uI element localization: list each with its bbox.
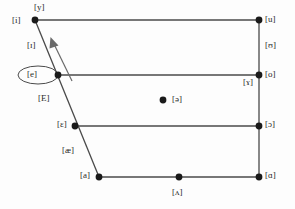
vowel-label-rams: [ɤ] [243, 78, 253, 87]
vowel-label-E: [E] [38, 94, 50, 103]
dot-a [96, 174, 103, 181]
vowel-label-wedge: [ʌ] [172, 188, 183, 197]
vowel-quadrilateral-svg [0, 0, 295, 209]
vowel-dots [32, 17, 263, 181]
dot-wedge [176, 174, 183, 181]
vowel-label-ae: [æ] [62, 146, 74, 155]
vowel-label-u: [u] [265, 15, 276, 24]
vowel-label-script-a: [ɑ] [265, 171, 276, 180]
vowel-label-openo: [ɔ] [265, 120, 275, 129]
e-highlight-ellipse [18, 66, 58, 84]
vowel-chart: [i] [y] [u] [ʊ] [ɪ] [e] [o] [ɤ] [E] [ə] … [0, 0, 295, 209]
dot-schwa [160, 97, 167, 104]
vowel-label-e: [e] [27, 70, 37, 79]
vowel-label-i: [i] [12, 16, 21, 25]
dot-eps [72, 123, 79, 130]
dot-e [55, 72, 62, 79]
vowel-label-eps: [ɛ] [57, 120, 67, 129]
dot-o [256, 72, 263, 79]
vowel-label-small-i: [ɪ] [27, 41, 36, 50]
dot-openo [256, 123, 263, 130]
vowel-label-schwa: [ə] [172, 95, 182, 104]
dot-u [256, 17, 263, 24]
vowel-label-o: [o] [265, 70, 276, 79]
vowel-label-y: [y] [34, 3, 45, 12]
dot-y [32, 17, 39, 24]
vowel-label-a: [a] [80, 171, 90, 180]
vowel-label-small-u: [ʊ] [265, 41, 276, 50]
dot-script-a [256, 174, 263, 181]
